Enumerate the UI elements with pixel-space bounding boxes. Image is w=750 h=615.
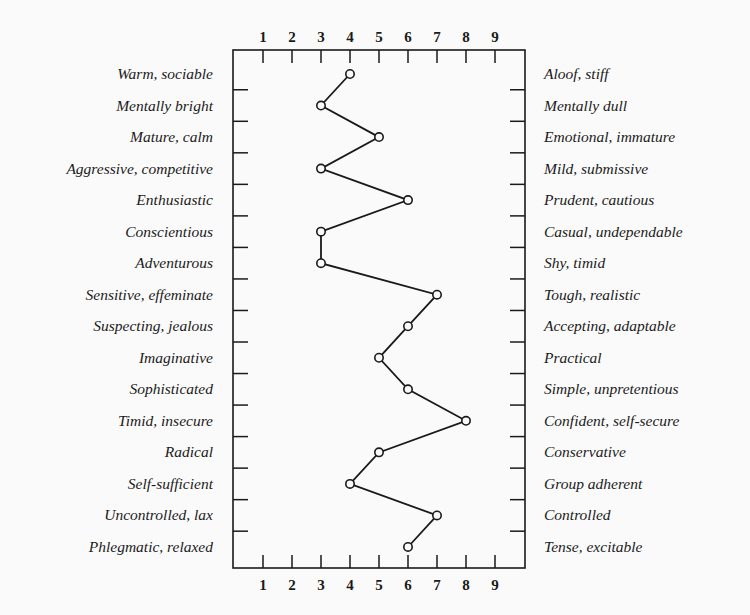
bottom-tick-label: 4: [346, 577, 354, 593]
top-tick-label: 1: [259, 29, 267, 45]
right-trait-label: Conservative: [544, 443, 626, 460]
data-point-marker: [317, 259, 325, 267]
right-trait-label: Mentally dull: [543, 97, 627, 114]
left-trait-labels: Warm, sociableMentally brightMature, cal…: [65, 65, 213, 555]
data-point-marker: [462, 417, 470, 425]
left-trait-label: Phlegmatic, relaxed: [88, 538, 213, 555]
bottom-tick-label: 8: [462, 577, 470, 593]
data-point-marker: [404, 543, 412, 551]
left-trait-label: Warm, sociable: [117, 65, 213, 82]
right-trait-label: Group adherent: [544, 475, 643, 492]
bottom-tick-label: 2: [288, 577, 296, 593]
right-trait-label: Shy, timid: [544, 254, 605, 271]
data-point-marker: [404, 385, 412, 393]
top-axis: 123456789: [259, 29, 499, 63]
left-trait-label: Self-sufficient: [128, 475, 214, 492]
side-ticks: [233, 90, 525, 531]
data-point-marker: [375, 448, 383, 456]
left-trait-label: Timid, insecure: [118, 412, 213, 429]
left-trait-label: Suspecting, jealous: [93, 317, 213, 334]
left-trait-label: Mentally bright: [115, 97, 214, 114]
top-tick-label: 5: [375, 29, 383, 45]
right-trait-label: Tough, realistic: [544, 286, 640, 303]
top-tick-label: 3: [317, 29, 325, 45]
bottom-tick-label: 1: [259, 577, 267, 593]
data-point-markers: [317, 70, 470, 551]
right-trait-label: Emotional, immature: [543, 128, 675, 145]
right-trait-label: Mild, submissive: [543, 160, 648, 177]
right-trait-label: Simple, unpretentious: [544, 380, 679, 397]
profile-line: [321, 74, 466, 547]
bottom-axis: 123456789: [259, 555, 499, 593]
top-tick-label: 6: [404, 29, 412, 45]
data-point-marker: [317, 101, 325, 109]
right-trait-label: Prudent, cautious: [543, 191, 654, 208]
top-tick-label: 9: [491, 29, 499, 45]
data-point-marker: [404, 196, 412, 204]
right-trait-labels: Aloof, stiffMentally dullEmotional, imma…: [543, 65, 683, 555]
bottom-tick-label: 6: [404, 577, 412, 593]
left-trait-label: Enthusiastic: [135, 191, 213, 208]
bottom-tick-label: 3: [317, 577, 325, 593]
data-point-marker: [317, 227, 325, 235]
left-trait-label: Sophisticated: [129, 380, 213, 397]
data-point-marker: [433, 511, 441, 519]
top-tick-label: 8: [462, 29, 470, 45]
left-trait-label: Sensitive, effeminate: [86, 286, 214, 303]
top-tick-label: 4: [346, 29, 354, 45]
right-trait-label: Confident, self-secure: [544, 412, 680, 429]
data-point-marker: [346, 480, 354, 488]
left-trait-label: Adventurous: [134, 254, 213, 271]
top-tick-label: 2: [288, 29, 296, 45]
bottom-tick-label: 5: [375, 577, 383, 593]
left-trait-label: Uncontrolled, lax: [104, 506, 213, 523]
data-point-marker: [375, 354, 383, 362]
right-trait-label: Tense, excitable: [544, 538, 643, 555]
right-trait-label: Aloof, stiff: [543, 65, 611, 82]
bottom-tick-label: 7: [433, 577, 441, 593]
left-trait-label: Conscientious: [125, 223, 213, 240]
data-point-marker: [375, 133, 383, 141]
right-trait-label: Casual, undependable: [544, 223, 683, 240]
left-trait-label: Imaginative: [138, 349, 213, 366]
left-trait-label: Mature, calm: [129, 128, 213, 145]
data-point-marker: [404, 322, 412, 330]
data-point-marker: [317, 164, 325, 172]
right-trait-label: Controlled: [544, 506, 611, 523]
right-trait-label: Accepting, adaptable: [543, 317, 676, 334]
left-trait-label: Aggressive, competitive: [65, 160, 213, 177]
data-point-marker: [346, 70, 354, 78]
profile-chart: 123456789 123456789 Warm, sociableMental…: [0, 0, 750, 615]
data-point-marker: [433, 291, 441, 299]
left-trait-label: Radical: [164, 443, 213, 460]
bottom-tick-label: 9: [491, 577, 499, 593]
right-trait-label: Practical: [543, 349, 602, 366]
plot-frame: [233, 50, 525, 568]
top-tick-label: 7: [433, 29, 441, 45]
